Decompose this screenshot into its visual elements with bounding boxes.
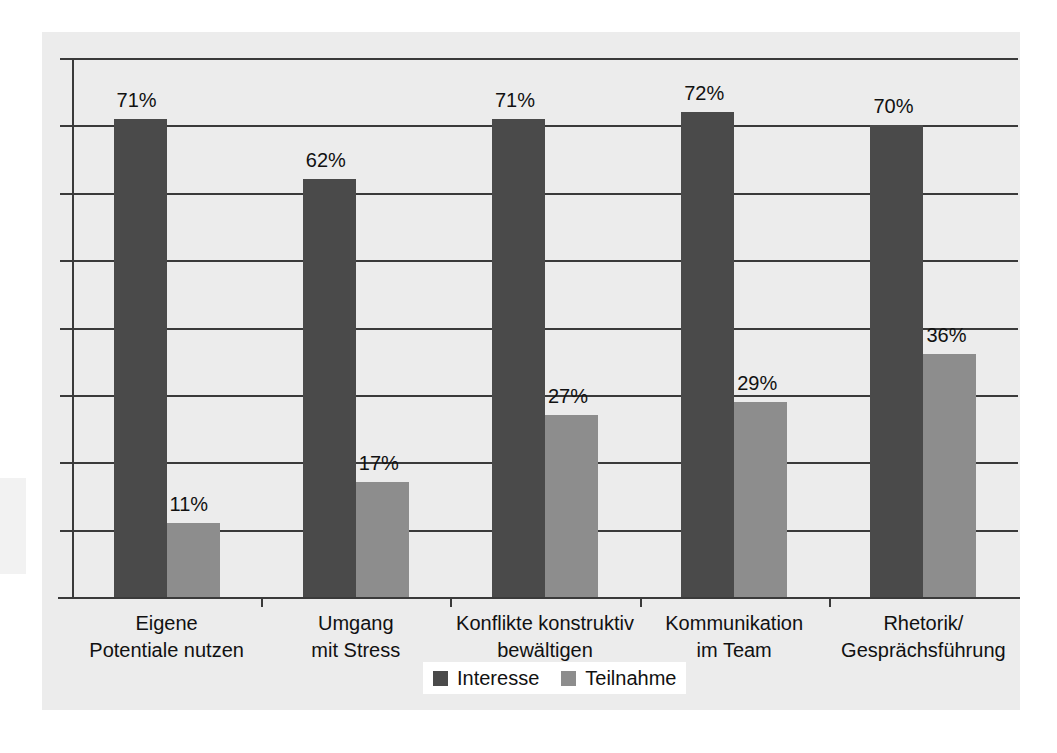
chart-legend: InteresseTeilnahme [423,662,686,694]
bar-value-label: 17% [359,452,399,475]
bar-value-label: 70% [873,95,913,118]
bar-interesse-3 [681,112,734,597]
y-axis-tick [60,462,74,464]
category-label-line: Umgang [261,610,450,637]
bar-teilnahme-4 [923,354,976,597]
category-label-line: Eigene [72,610,261,637]
legend-label: Teilnahme [585,667,676,690]
bar-teilnahme-3 [734,402,787,597]
category-label-line: Konflikte konstruktiv [450,610,639,637]
bar-value-label: 29% [737,372,777,395]
chart-figure: 71%11%62%17%71%27%72%29%70%36% EigenePot… [0,0,1057,753]
legend-label: Interesse [457,667,539,690]
bar-teilnahme-1 [356,482,409,597]
bar-value-label: 72% [684,82,724,105]
x-axis-category-label: Konflikte konstruktivbewältigen [450,610,639,664]
bar-value-label: 62% [306,149,346,172]
y-axis-tick [60,193,74,195]
x-axis-tick [829,597,831,607]
y-axis-tick [60,530,74,532]
bar-value-label: 71% [495,89,535,112]
scan-edge-artifact [0,478,26,574]
x-axis-category-label: Umgangmit Stress [261,610,450,664]
bar-interesse-2 [492,119,545,597]
bar-value-label: 71% [117,89,157,112]
y-axis-tick [60,395,74,397]
y-axis-tick [60,58,74,60]
legend-swatch-icon [433,671,448,686]
legend-entry-0: Interesse [433,667,539,690]
y-axis-tick [60,125,74,127]
x-axis-category-label: EigenePotentiale nutzen [72,610,261,664]
x-axis-category-label: Kommunikationim Team [640,610,829,664]
y-axis-tick [60,260,74,262]
y-axis-tick [60,328,74,330]
category-label-line: Kommunikation [640,610,829,637]
x-axis-tick [450,597,452,607]
bar-value-label: 11% [170,493,209,516]
legend-swatch-icon [561,671,576,686]
category-label-line: Potentiale nutzen [72,637,261,664]
x-axis-tick [261,597,263,607]
bar-interesse-0 [114,119,167,597]
bar-value-label: 36% [926,324,966,347]
gridline [72,58,1018,60]
y-axis [72,58,74,597]
bar-interesse-1 [303,179,356,597]
bar-teilnahme-2 [545,415,598,597]
x-axis-tick [640,597,642,607]
bar-teilnahme-0 [167,523,220,597]
bar-value-label: 27% [548,385,588,408]
x-axis [58,597,1020,599]
category-label-line: im Team [640,637,829,664]
category-label-line: bewältigen [450,637,639,664]
legend-entry-1: Teilnahme [561,667,676,690]
category-label-line: Rhetorik/ [829,610,1018,637]
category-label-line: Gesprächsführung [829,637,1018,664]
plot-area: 71%11%62%17%71%27%72%29%70%36% [72,58,1018,597]
x-axis-category-label: Rhetorik/Gesprächsführung [829,610,1018,664]
category-label-line: mit Stress [261,637,450,664]
bar-interesse-4 [870,125,923,597]
